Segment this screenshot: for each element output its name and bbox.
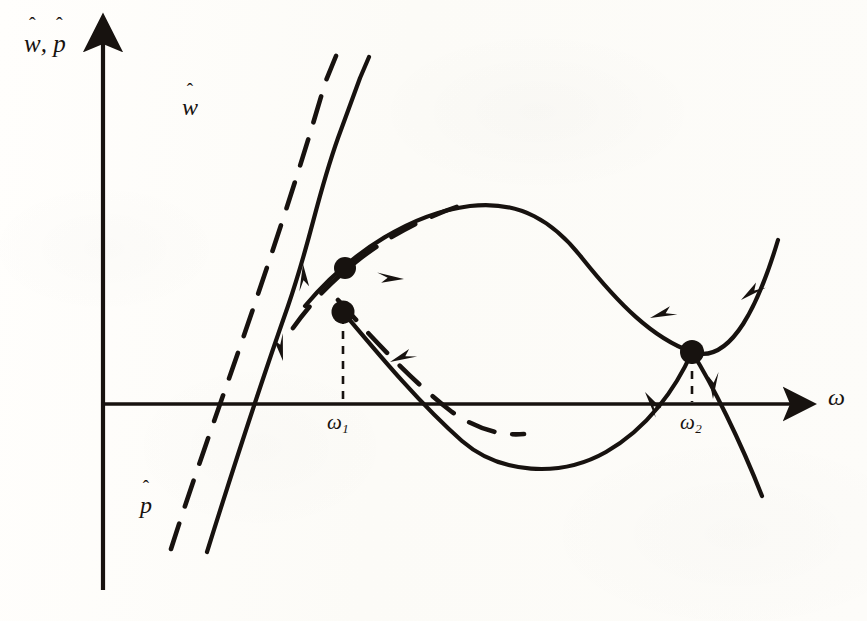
axes-group (103, 44, 790, 590)
p-hat-dashed-curve (171, 56, 336, 549)
p-hat-curve-label: ˆp (140, 492, 152, 519)
omega-1-base: ω (327, 410, 342, 434)
direction-arrow-3 (376, 263, 404, 289)
omega-1-subscript: 1 (342, 421, 349, 436)
omega-1-equilibrium-dot (332, 301, 355, 324)
omega-1-tick-label: ω1 (327, 410, 349, 437)
direction-arrow-5 (650, 302, 678, 330)
w-hat-curve-label: ˆw (182, 94, 198, 121)
figure-page: ˆw, ˆp ω ˆw ˆp ω1 ω2 (0, 0, 867, 621)
upper-equilibrium-dot (334, 257, 356, 279)
w-hat-trough-curve (343, 312, 692, 469)
right-descending-branch (692, 352, 762, 496)
hat-accent-p-curve: ˆ (143, 477, 149, 496)
hat-accent-p-axis: ˆ (56, 15, 63, 35)
y-axis-label-separator: , (41, 30, 54, 57)
hat-accent-w-curve: ˆ (187, 80, 193, 99)
omega-2-base: ω (680, 410, 695, 434)
omega-2-tick-label: ω2 (680, 410, 702, 437)
hat-accent-w-axis: ˆ (29, 15, 36, 35)
equilibrium-dots-group (332, 257, 705, 364)
hump-dashed-curve (293, 204, 466, 328)
omega-2-subscript: 2 (695, 421, 702, 436)
omega-2-equilibrium-dot (680, 340, 704, 364)
x-axis-label: ω (828, 384, 845, 411)
hump-solid-curve (305, 205, 778, 354)
curves-group (171, 56, 778, 552)
phase-diagram-svg (0, 0, 867, 621)
y-axis-label: ˆw, ˆp (24, 30, 66, 58)
